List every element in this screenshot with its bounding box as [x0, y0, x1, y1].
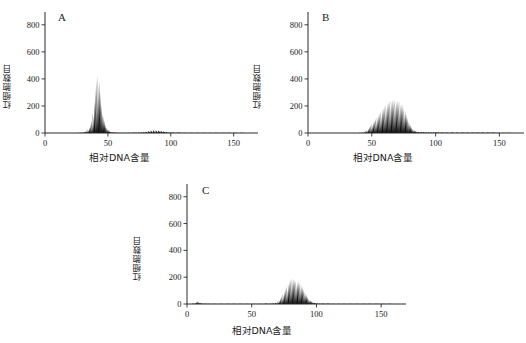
panel-b-plot: 0200400600800050100150 — [250, 0, 526, 172]
y-tick-label: 0 — [35, 128, 39, 138]
histogram-area — [78, 76, 247, 133]
y-tick-label: 800 — [290, 20, 303, 30]
y-tick-label: 200 — [169, 272, 182, 282]
x-tick-label: 0 — [185, 309, 189, 319]
panel-c-svg: 0200400600800050100150 — [130, 172, 410, 343]
panel-a: 红细胞数目 A 0200400600800050100150 相对DNA含量 — [0, 0, 263, 172]
histogram-area — [359, 99, 512, 133]
x-tick-label: 50 — [104, 138, 113, 148]
y-tick-label: 600 — [169, 219, 182, 229]
panel-c-x-axis-label: 相对DNA含量 — [122, 323, 402, 337]
panel-a-plot: 0200400600800050100150 — [0, 0, 263, 172]
x-tick-label: 150 — [227, 138, 240, 148]
panel-c: 红细胞数目 C 0200400600800050100150 相对DNA含量 — [130, 172, 410, 343]
x-tick-label: 50 — [247, 309, 256, 319]
x-tick-label: 100 — [310, 309, 323, 319]
y-tick-label: 200 — [290, 101, 303, 111]
x-tick-label: 100 — [429, 138, 442, 148]
y-tick-label: 800 — [27, 20, 40, 30]
x-tick-label: 0 — [43, 138, 47, 148]
panel-b-x-axis-label: 相对DNA含量 — [245, 150, 521, 164]
x-tick-label: 150 — [493, 138, 506, 148]
panel-a-svg: 0200400600800050100150 — [0, 0, 263, 172]
y-tick-label: 0 — [177, 299, 181, 309]
y-tick-label: 0 — [298, 128, 302, 138]
panel-c-plot: 0200400600800050100150 — [130, 172, 410, 343]
panel-b-svg: 0200400600800050100150 — [250, 0, 526, 172]
x-tick-label: 150 — [375, 309, 388, 319]
y-tick-label: 800 — [169, 192, 182, 202]
y-tick-label: 600 — [27, 47, 40, 57]
y-tick-label: 400 — [169, 245, 182, 255]
y-tick-label: 400 — [27, 74, 40, 84]
x-tick-label: 100 — [164, 138, 177, 148]
panel-b: 红细胞数目 B 0200400600800050100150 相对DNA含量 — [250, 0, 526, 172]
x-tick-label: 0 — [306, 138, 310, 148]
y-tick-label: 600 — [290, 47, 303, 57]
x-tick-label: 50 — [368, 138, 377, 148]
y-tick-label: 400 — [290, 74, 303, 84]
y-tick-label: 200 — [27, 101, 40, 111]
panel-a-x-axis-label: 相对DNA含量 — [0, 150, 251, 164]
histogram-area — [192, 278, 394, 304]
